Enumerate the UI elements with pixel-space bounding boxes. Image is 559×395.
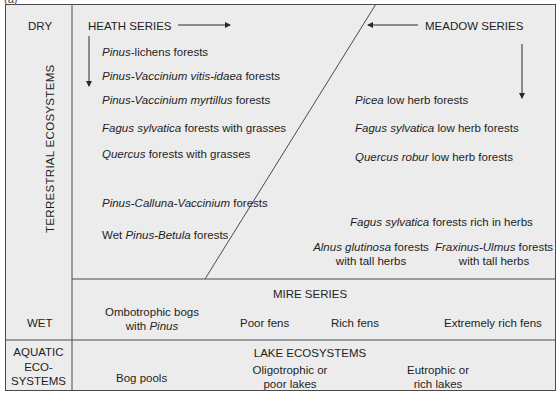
heath-item: Pinus-Vaccinium myrtillus forests: [102, 93, 270, 107]
mire-item-line1: Ombotrophic bogs: [92, 305, 212, 319]
heath-item: Pinus-Calluna-Vaccinium forests: [102, 196, 268, 210]
heath-series-title: HEATH SERIES: [88, 19, 172, 33]
mire-item-prefix: with: [126, 320, 150, 332]
meadow-item-taxon: Quercus robur: [355, 151, 429, 163]
meadow-item-line2: with tall herbs: [306, 254, 436, 268]
meadow-item: Fraxinus-Ulmus forests with tall herbs: [434, 240, 554, 268]
lake-ecosystems-title: LAKE ECOSYSTEMS: [220, 346, 400, 360]
terrestrial-ecosystems-label: TERRESTRIAL ECOSYSTEMS: [44, 73, 56, 233]
heath-item-text: forests: [230, 197, 268, 209]
aquatic-line1: AQUATIC: [5, 345, 72, 360]
heath-item-text: forests: [191, 229, 229, 241]
heath-item-taxon: Pinus-Calluna-Vaccinium: [102, 197, 230, 209]
meadow-item: Picea low herb forests: [355, 93, 468, 107]
meadow-item-line2: with tall herbs: [434, 254, 554, 268]
meadow-series-title: MEADOW SERIES: [425, 19, 523, 33]
lake-item: Oligotrophic or poor lakes: [240, 363, 340, 391]
meadow-item: Fagus sylvatica forests rich in herbs: [350, 215, 533, 229]
lake-item: Eutrophic or rich lakes: [393, 363, 483, 391]
dry-label: DRY: [28, 19, 52, 33]
mire-item-taxon: Pinus: [149, 320, 178, 332]
mire-item: Poor fens: [240, 316, 289, 330]
lake-item-line2: poor lakes: [240, 377, 340, 391]
meadow-item-taxon: Alnus glutinosa: [313, 241, 391, 253]
meadow-item-taxon: Picea: [355, 94, 384, 106]
meadow-item-taxon: Fraxinus-Ulmus: [435, 241, 516, 253]
heath-item-taxon: Pinus-Vaccinium myrtillus: [102, 94, 233, 106]
lake-item: Bog pools: [116, 371, 167, 385]
heath-item-taxon: Pinus-Vaccinium vitis-idaea: [102, 70, 242, 82]
mire-series-title: MIRE SERIES: [230, 287, 390, 301]
aquatic-line3: SYSTEMS: [5, 374, 72, 389]
heath-item-text: forests: [242, 70, 280, 82]
meadow-item-text: low herb forests: [434, 122, 518, 134]
meadow-item-text: low herb forests: [384, 94, 468, 106]
heath-item-taxon: Pinus: [102, 46, 131, 58]
meadow-item: Alnus glutinosa forests with tall herbs: [306, 240, 436, 268]
lake-item-line2: rich lakes: [393, 377, 483, 391]
heath-item-text: forests with grasses: [181, 122, 286, 134]
mire-item: Rich fens: [331, 316, 379, 330]
heath-item: Wet Pinus-Betula forests: [102, 228, 228, 242]
wet-label: WET: [27, 316, 53, 330]
heath-item-text: forests: [233, 94, 271, 106]
meadow-item-text: forests rich in herbs: [429, 216, 533, 228]
heath-item: Pinus-Vaccinium vitis-idaea forests: [102, 69, 280, 83]
aquatic-ecosystems-label: AQUATIC ECO- SYSTEMS: [5, 345, 72, 389]
heath-item-text: -lichens forests: [131, 46, 208, 58]
meadow-item-taxon: Fagus sylvatica: [355, 122, 434, 134]
mire-item: Extremely rich fens: [444, 316, 542, 330]
meadow-item-text: low herb forests: [429, 151, 513, 163]
meadow-item-text: forests: [515, 241, 553, 253]
heath-item-taxon: Fagus sylvatica: [102, 122, 181, 134]
heath-item: Fagus sylvatica forests with grasses: [102, 121, 286, 135]
aquatic-line2: ECO-: [5, 360, 72, 375]
heath-item: Quercus forests with grasses: [102, 147, 250, 161]
diagram-frame: [5, 4, 556, 391]
lake-item-line1: Eutrophic or: [393, 363, 483, 377]
meadow-item-text: forests: [391, 241, 429, 253]
heath-item-taxon: Quercus: [102, 148, 145, 160]
meadow-item: Quercus robur low herb forests: [355, 150, 513, 164]
meadow-item-taxon: Fagus sylvatica: [350, 216, 429, 228]
lake-item-line1: Oligotrophic or: [240, 363, 340, 377]
mire-item: Ombotrophic bogs with Pinus: [92, 305, 212, 333]
meadow-item: Fagus sylvatica low herb forests: [355, 121, 519, 135]
heath-item-text: forests with grasses: [145, 148, 250, 160]
heath-item-prefix: Wet: [102, 229, 125, 241]
heath-item: Pinus-lichens forests: [102, 45, 208, 59]
heath-item-taxon: Pinus-Betula: [125, 229, 190, 241]
